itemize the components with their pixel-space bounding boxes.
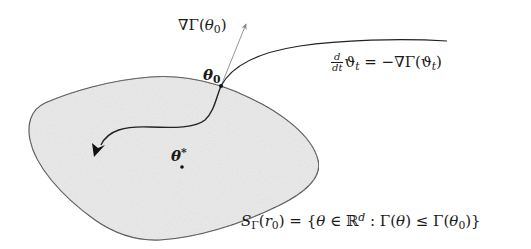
- ode-rhs-var: ϑ: [421, 53, 432, 71]
- set-label-r: r: [265, 212, 272, 230]
- theta0-label-theta: θ: [203, 66, 213, 84]
- set-label-theta1: θ: [316, 212, 325, 230]
- theta0-label-sub: 0: [213, 73, 221, 86]
- gradient-label: ∇Γ(θ0): [178, 18, 227, 36]
- set-label-S: S: [241, 212, 251, 230]
- ode-lhs-var: ϑ: [344, 53, 355, 71]
- theta0-label: θ0: [203, 68, 221, 86]
- ode-derivative-fraction: ddt: [331, 52, 343, 73]
- set-label-end: )}: [465, 212, 480, 230]
- set-label-in-reals: ∈ ℝ: [325, 212, 358, 230]
- gradient-label-close: ): [221, 16, 227, 34]
- ode-label: ddtϑt = −∇Γ(ϑt): [331, 52, 442, 73]
- ode-rhs: = −∇Γ(: [360, 53, 421, 71]
- sublevel-set-label: SΓ(r0) = {θ ∈ ℝd : Γ(θ) ≤ Γ(θ0)}: [241, 213, 481, 232]
- set-label-le: ) ≤ Γ(: [405, 212, 449, 230]
- set-label-theta2: θ: [396, 212, 405, 230]
- theta-star-label-theta: θ: [171, 147, 181, 165]
- gradient-label-sub: 0: [214, 23, 221, 36]
- gradient-label-nabla: ∇Γ(: [178, 16, 205, 34]
- set-label-colon: : Γ(: [365, 212, 396, 230]
- gradient-label-theta: θ: [205, 16, 214, 34]
- theta-star-point: [180, 165, 184, 169]
- ode-rhs-close: ): [436, 53, 442, 71]
- diagram-canvas: ∇Γ(θ0) θ0 θ* ddtϑt = −∇Γ(ϑt) SΓ(r0) = {θ…: [0, 0, 531, 249]
- theta-star-label-sup: *: [181, 146, 187, 159]
- theta-star-label: θ*: [171, 148, 187, 164]
- set-label-def: ) = {: [279, 212, 317, 230]
- ode-frac-den: dt: [331, 63, 343, 73]
- set-label-S-sub: Γ: [251, 219, 259, 232]
- set-label-r-sub: 0: [272, 219, 279, 232]
